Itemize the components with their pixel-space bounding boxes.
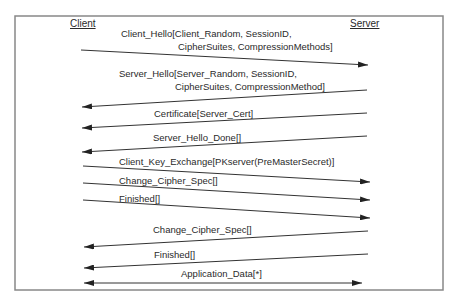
actor-server-label: Server xyxy=(350,18,380,29)
message-application-data: Application_Data[*] xyxy=(84,268,362,283)
message-arrow xyxy=(81,50,368,65)
message-change-cipher-spec-server: Change_Cipher_Spec[] xyxy=(84,224,368,247)
message-label: Client_Key_Exchange[PKserver(PreMasterSe… xyxy=(119,156,334,167)
message-finished-server: Finished[] xyxy=(84,249,368,268)
message-label: Server_Hello[Server_Random, SessionID, xyxy=(119,68,297,79)
message-server-hello-done: Server_Hello_Done[] xyxy=(82,132,367,152)
message-arrow xyxy=(84,254,368,268)
message-label: Client_Hello[Client_Random, SessionID, xyxy=(121,28,292,39)
tls-handshake-sequence-diagram: Client Server Client_Hello[Client_Random… xyxy=(0,0,459,305)
message-label: Certificate[Server_Cert] xyxy=(154,108,253,119)
message-label: Change_Cipher_Spec[] xyxy=(153,224,252,235)
message-list: Client_Hello[Client_Random, SessionID,Ci… xyxy=(81,28,370,283)
message-certificate: Certificate[Server_Cert] xyxy=(82,108,367,128)
message-arrow xyxy=(82,90,367,107)
message-server-hello: Server_Hello[Server_Random, SessionID,Ci… xyxy=(82,68,367,107)
message-finished-client: Finished[] xyxy=(83,193,370,218)
message-label: CipherSuites, CompressionMethod] xyxy=(175,81,325,92)
message-arrow xyxy=(83,200,370,218)
diagram-frame xyxy=(15,16,443,290)
actor-client-label: Client xyxy=(70,18,96,29)
message-label: Server_Hello_Done[] xyxy=(153,132,241,143)
message-label: CipherSuites, CompressionMethods] xyxy=(178,41,333,52)
message-client-hello: Client_Hello[Client_Random, SessionID,Ci… xyxy=(81,28,368,65)
message-label: Change_Cipher_Spec[] xyxy=(119,175,218,186)
message-label: Application_Data[*] xyxy=(181,268,262,279)
message-label: Finished[] xyxy=(154,249,195,260)
